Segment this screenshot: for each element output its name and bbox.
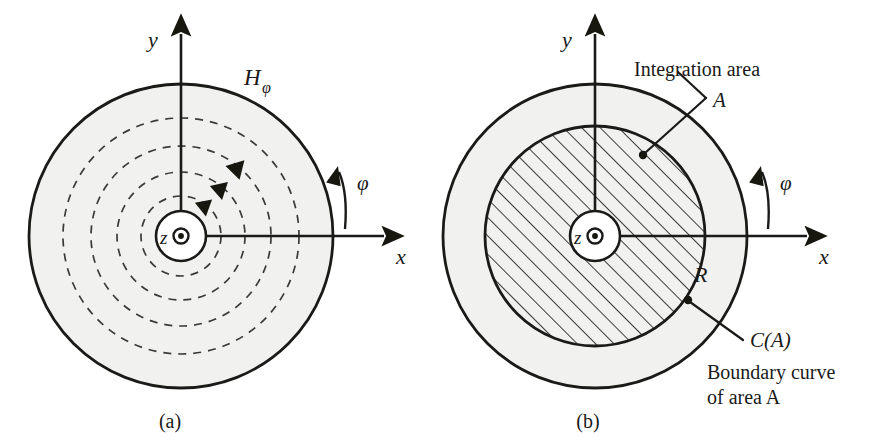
- x-axis-label: x: [818, 244, 829, 269]
- field-subscript-label: φ: [262, 79, 271, 97]
- boundary-symbol-label: C(A): [750, 328, 791, 352]
- panel-b-diagram: y x z φ R Integration area A C(A) Bounda…: [435, 0, 869, 445]
- phi-angle-label: φ: [780, 171, 792, 195]
- panel-a-diagram: y x z H φ φ (a): [0, 0, 435, 445]
- integration-area-title: Integration area: [634, 58, 760, 81]
- figure-root: y x z H φ φ (a): [0, 0, 869, 445]
- field-symbol-label: H: [243, 65, 262, 90]
- panel-a-caption: (a): [159, 410, 181, 433]
- phi-direction-arc: [339, 172, 346, 229]
- z-axis-label: z: [573, 227, 582, 248]
- integration-area-symbol: A: [711, 88, 726, 112]
- y-axis-label: y: [146, 27, 158, 52]
- current-dot-icon: [178, 233, 184, 239]
- radius-label: R: [693, 262, 708, 287]
- y-axis-label: y: [560, 27, 572, 52]
- boundary-text-line2: of area A: [707, 386, 781, 408]
- z-axis-label: z: [159, 227, 168, 248]
- phi-angle-label: φ: [357, 171, 369, 195]
- x-axis-label: x: [395, 244, 406, 269]
- boundary-text-line1: Boundary curve: [707, 361, 835, 384]
- panel-b-caption: (b): [576, 410, 599, 433]
- current-dot-icon: [592, 233, 598, 239]
- phi-direction-arc: [762, 172, 769, 229]
